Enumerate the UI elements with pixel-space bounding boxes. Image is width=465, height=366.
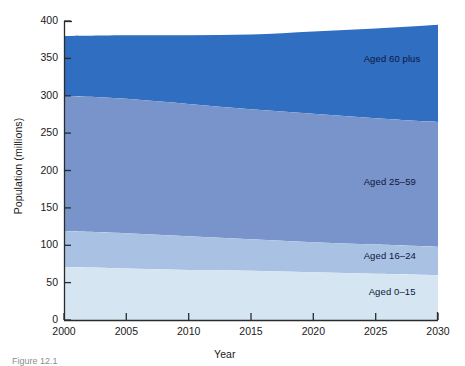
x-tick-label: 2030 xyxy=(418,325,458,337)
x-tick-label: 2020 xyxy=(293,325,333,337)
x-tick-label: 2005 xyxy=(106,325,146,337)
x-tick-label: 2025 xyxy=(356,325,396,337)
x-tick-label: 2015 xyxy=(231,325,271,337)
y-tick-label: 200 xyxy=(24,164,58,176)
series-inline-label: Aged 0–15 xyxy=(369,286,416,297)
x-axis-title: Year xyxy=(214,348,236,360)
y-tick-label: 400 xyxy=(24,14,58,26)
figure-container: 400350300250200150100500 200020052010201… xyxy=(0,0,465,366)
y-tick-label: 300 xyxy=(24,89,58,101)
y-tick-label: 250 xyxy=(24,126,58,138)
series-inline-label: Aged 60 plus xyxy=(364,53,421,64)
figure-caption: Figure 12.1 xyxy=(12,356,58,366)
y-tick-label: 0 xyxy=(24,313,58,325)
y-tick-label: 150 xyxy=(24,201,58,213)
series-inline-label: Aged 16–24 xyxy=(364,250,416,261)
x-tick-label: 2000 xyxy=(44,325,84,337)
area-bands-group xyxy=(64,25,438,320)
y-tick-label: 50 xyxy=(24,276,58,288)
x-tick-label: 2010 xyxy=(169,325,209,337)
y-tick-label: 100 xyxy=(24,238,58,250)
y-axis-title: Population (millions) xyxy=(12,96,24,236)
series-inline-label: Aged 25–59 xyxy=(364,176,416,187)
y-tick-label: 350 xyxy=(24,51,58,63)
